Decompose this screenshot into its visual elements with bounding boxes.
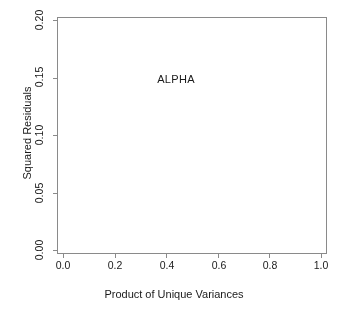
y-axis-title: Squared Residuals — [21, 53, 33, 213]
x-tick-label-3: 0.6 — [199, 259, 239, 271]
x-tick-label-1: 0.2 — [95, 259, 135, 271]
scatter-plot-figure: 0.0 0.2 0.4 0.6 0.8 1.0 0.00 0.05 0.10 0… — [0, 0, 348, 315]
y-tick-label-1: 0.05 — [33, 173, 45, 213]
y-tick-label-2: 0.10 — [33, 115, 45, 155]
y-tick-label-0: 0.00 — [33, 230, 45, 270]
alpha-annotation: ALPHA — [146, 73, 206, 85]
y-tick-label-4: 0.20 — [33, 0, 45, 40]
plot-frame — [57, 17, 327, 254]
x-axis-title: Product of Unique Variances — [0, 288, 348, 300]
x-tick-label-5: 1.0 — [301, 259, 341, 271]
x-tick-label-2: 0.4 — [147, 259, 187, 271]
y-tick-label-3: 0.15 — [33, 57, 45, 97]
x-tick-label-4: 0.8 — [250, 259, 290, 271]
x-tick-label-0: 0.0 — [43, 259, 83, 271]
